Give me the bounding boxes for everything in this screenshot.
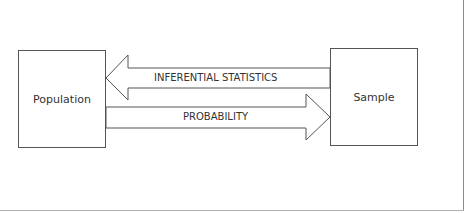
probability-label: PROBABILITY <box>183 111 248 122</box>
population-label: Population <box>33 93 91 106</box>
sample-box: Sample <box>330 48 418 146</box>
inferential-statistics-label: INFERENTIAL STATISTICS <box>154 72 277 83</box>
population-box: Population <box>18 50 106 148</box>
frame-border-right <box>463 0 464 211</box>
sample-label: Sample <box>353 91 394 104</box>
diagram-canvas: Population Sample INFERENTIAL STATISTICS… <box>0 0 473 213</box>
frame-border-bottom <box>0 210 464 211</box>
